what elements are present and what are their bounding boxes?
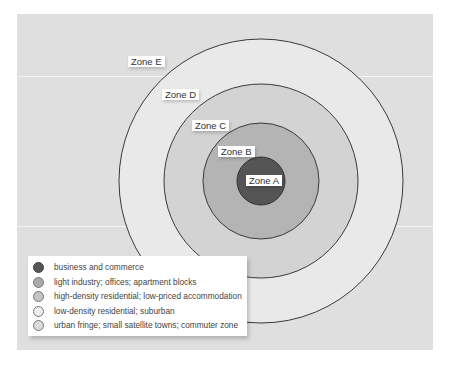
legend-item: business and commerce [28, 260, 152, 274]
swatch-circle-icon [33, 320, 44, 331]
zone-a-label: Zone A [246, 175, 282, 186]
legend-label: high-density residential; low-priced acc… [54, 291, 242, 301]
legend-item: high-density residential; low-priced acc… [28, 289, 258, 303]
legend-label: light industry; offices; apartment block… [54, 277, 197, 287]
legend-item: low-density residential; suburban [28, 304, 185, 318]
legend-item: light industry; offices; apartment block… [28, 275, 209, 289]
legend-label: business and commerce [54, 262, 144, 272]
swatch-circle-icon [33, 262, 44, 273]
zone-c-label: Zone C [192, 120, 229, 131]
swatch-circle-icon [33, 291, 44, 302]
legend-label: urban fringe; small satellite towns; com… [54, 320, 238, 330]
zone-b-label: Zone B [218, 146, 255, 157]
swatch-circle-icon [33, 306, 44, 317]
zone-e-label: Zone E [128, 56, 165, 67]
zone-d-label: Zone D [162, 89, 199, 100]
legend-label: low-density residential; suburban [54, 306, 175, 316]
legend: business and commerce light industry; of… [28, 256, 247, 336]
legend-item: urban fringe; small satellite towns; com… [28, 318, 254, 332]
swatch-circle-icon [33, 277, 44, 288]
